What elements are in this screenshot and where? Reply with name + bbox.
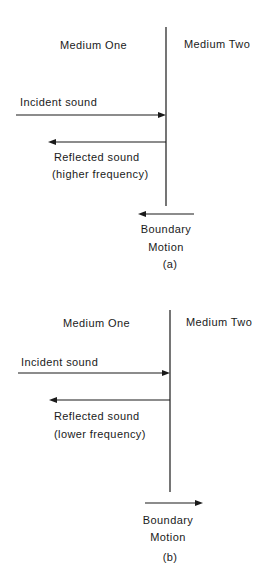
doppler-reflection-diagram: Medium One Medium Two Incident sound Ref… (0, 0, 279, 565)
boundary-label: Boundary (141, 223, 191, 235)
motion-label: Motion (150, 531, 185, 543)
medium-two-label: Medium Two (186, 316, 252, 328)
medium-two-label: Medium Two (184, 38, 250, 50)
reflected-sound-label: Reflected sound (54, 151, 140, 163)
panel-b: Medium One Medium Two Incident sound Ref… (18, 310, 252, 563)
panel-caption: (b) (163, 551, 178, 563)
boundary-motion-right-arrow-icon (145, 500, 203, 506)
reflected-frequency-label: (lower frequency) (54, 428, 146, 440)
reflected-frequency-label: (higher frequency) (52, 168, 148, 180)
reflected-sound-label: Reflected sound (54, 410, 140, 422)
medium-one-label: Medium One (63, 317, 130, 329)
panel-a: Medium One Medium Two Incident sound Ref… (16, 27, 250, 270)
incident-arrow-icon (18, 370, 170, 376)
reflected-arrow-icon (49, 397, 170, 403)
boundary-motion-left-arrow-icon (138, 211, 194, 217)
incident-arrow-icon (16, 112, 166, 118)
medium-one-label: Medium One (60, 39, 127, 51)
motion-label: Motion (148, 241, 183, 253)
incident-sound-label: Incident sound (21, 356, 98, 368)
boundary-label: Boundary (143, 514, 193, 526)
panel-caption: (a) (163, 258, 178, 270)
reflected-arrow-icon (48, 139, 166, 145)
incident-sound-label: Incident sound (20, 96, 97, 108)
